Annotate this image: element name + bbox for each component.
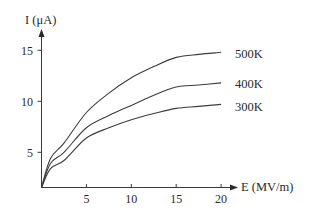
curve-300k — [42, 104, 222, 187]
series-label-400k: 400K — [235, 77, 263, 91]
series-label-500k: 500K — [235, 47, 263, 61]
x-axis-label: E (MV/m) — [241, 180, 293, 194]
series-label-300k: 300K — [235, 100, 263, 114]
curve-400k — [42, 83, 222, 188]
y-axis-label: I (μA) — [25, 13, 56, 27]
iv-chart: 5101520 51015 I (μA) E (MV/m) 500K 400K … — [0, 0, 313, 219]
x-tick-label: 5 — [83, 192, 89, 206]
curves — [42, 52, 222, 187]
x-tick-label: 10 — [125, 192, 137, 206]
x-tick-label: 15 — [170, 192, 182, 206]
y-tick-label: 15 — [21, 44, 33, 58]
y-ticks: 51015 — [21, 44, 42, 160]
y-tick-label: 10 — [21, 95, 33, 109]
x-tick-label: 20 — [215, 192, 227, 206]
y-tick-label: 5 — [27, 146, 33, 160]
